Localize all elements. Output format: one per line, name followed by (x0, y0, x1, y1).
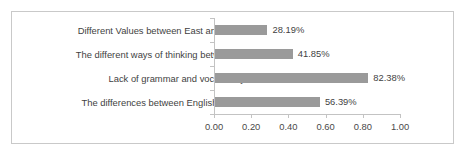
x-axis-tick-5 (400, 114, 401, 118)
bar-2[interactable] (215, 73, 368, 83)
bar-0[interactable] (215, 25, 267, 35)
x-axis-tick-4 (363, 114, 364, 118)
y-axis-tick-3 (210, 90, 214, 91)
x-axis-tick-2 (288, 114, 289, 118)
y-axis-tick-0 (210, 18, 214, 19)
x-axis-label-4: 0.80 (354, 121, 372, 132)
x-axis-label-5: 1.00 (391, 121, 409, 132)
bar-chart-plot-area: Different Values between East and West T… (12, 12, 453, 143)
x-axis-label-1: 0.20 (242, 121, 260, 132)
bar-value-label-1: 41.85% (298, 48, 330, 59)
x-axis-line (214, 114, 401, 115)
x-axis-tick-1 (251, 114, 252, 118)
x-axis-label-0: 0.00 (205, 121, 223, 132)
x-axis-tick-0 (214, 114, 215, 118)
bar-value-label-2: 82.38% (373, 72, 405, 83)
chart-frame: Different Values between East and West T… (11, 11, 454, 144)
x-axis-label-2: 0.40 (279, 121, 297, 132)
x-axis-label-3: 0.60 (316, 121, 334, 132)
bar-value-label-0: 28.19% (272, 24, 304, 35)
y-axis-tick-2 (210, 66, 214, 67)
x-axis-tick-3 (326, 114, 327, 118)
bar-3[interactable] (215, 97, 320, 107)
bar-value-label-3: 56.39% (325, 96, 357, 107)
y-axis-tick-1 (210, 42, 214, 43)
bar-1[interactable] (215, 49, 293, 59)
